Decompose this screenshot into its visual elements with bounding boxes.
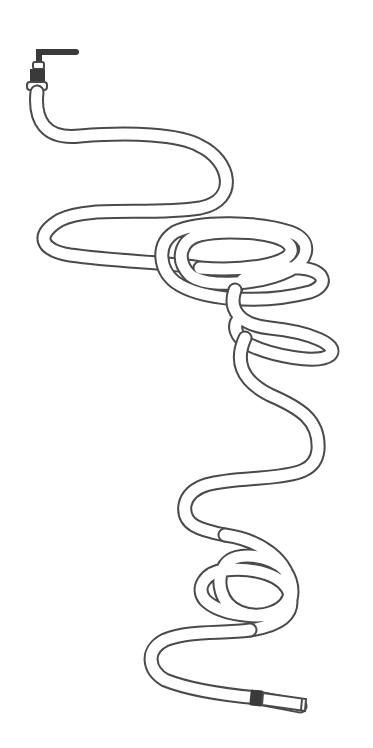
nozzle-icon [249, 689, 306, 711]
hose-drawing [0, 0, 373, 748]
hose [37, 92, 332, 706]
faucet-icon [27, 49, 79, 90]
